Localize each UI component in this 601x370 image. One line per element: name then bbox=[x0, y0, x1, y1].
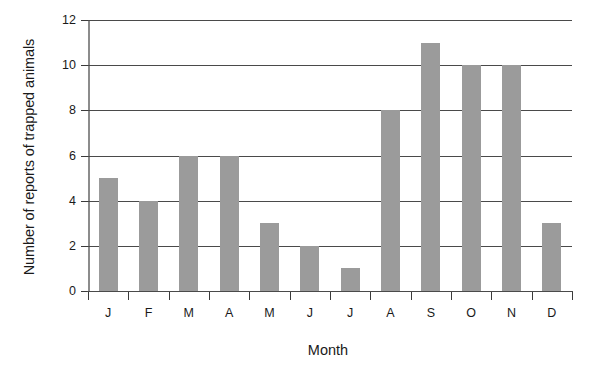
gridline-6 bbox=[88, 156, 572, 157]
x-tick-mark-5 bbox=[290, 292, 291, 300]
x-tick-label-0: J bbox=[88, 306, 128, 320]
bar-J-0 bbox=[99, 178, 118, 291]
bar-N-10 bbox=[502, 65, 521, 291]
x-tick-label-6: J bbox=[330, 306, 370, 320]
x-tick-mark-6 bbox=[330, 292, 331, 300]
bar-J-6 bbox=[341, 268, 360, 291]
x-tick-mark-2 bbox=[169, 292, 170, 300]
x-tick-label-10: N bbox=[492, 306, 532, 320]
x-tick-label-1: F bbox=[129, 306, 169, 320]
x-tick-mark-1 bbox=[128, 292, 129, 300]
gridline-2 bbox=[88, 246, 572, 247]
y-tick-label-6: 6 bbox=[52, 150, 76, 162]
y-tick-label-0: 0 bbox=[52, 285, 76, 297]
x-tick-label-5: J bbox=[290, 306, 330, 320]
x-tick-mark-10 bbox=[491, 292, 492, 300]
bar-A-3 bbox=[220, 156, 239, 292]
bar-F-1 bbox=[139, 201, 158, 291]
x-tick-mark-12 bbox=[572, 292, 573, 300]
x-tick-label-7: A bbox=[371, 306, 411, 320]
x-tick-mark-3 bbox=[209, 292, 210, 300]
bar-M-2 bbox=[179, 156, 198, 292]
bar-M-4 bbox=[260, 223, 279, 291]
y-tick-label-12: 12 bbox=[52, 14, 76, 26]
bar-J-5 bbox=[300, 246, 319, 291]
y-tick-label-8: 8 bbox=[52, 104, 76, 116]
bar-chart-figure: Number of reports of trapped animals 12 … bbox=[0, 0, 601, 370]
y-tick-label-4: 4 bbox=[52, 195, 76, 207]
bar-D-11 bbox=[542, 223, 561, 291]
y-axis-title: Number of reports of trapped animals bbox=[18, 2, 40, 312]
x-tick-label-4: M bbox=[250, 306, 290, 320]
x-tick-mark-0 bbox=[88, 292, 89, 300]
x-tick-label-2: M bbox=[169, 306, 209, 320]
x-tick-label-9: O bbox=[451, 306, 491, 320]
gridline-10 bbox=[88, 65, 572, 66]
bar-O-9 bbox=[462, 65, 481, 291]
bar-S-8 bbox=[421, 43, 440, 291]
y-tick-label-2: 2 bbox=[52, 240, 76, 252]
x-tick-label-8: S bbox=[411, 306, 451, 320]
x-tick-label-11: D bbox=[532, 306, 572, 320]
x-axis-title: Month bbox=[0, 341, 601, 359]
bar-A-7 bbox=[381, 110, 400, 291]
x-tick-mark-4 bbox=[249, 292, 250, 300]
x-tick-label-3: A bbox=[209, 306, 249, 320]
plot-area bbox=[88, 20, 572, 291]
x-tick-mark-7 bbox=[370, 292, 371, 300]
x-tick-mark-11 bbox=[532, 292, 533, 300]
gridline-4 bbox=[88, 201, 572, 202]
y-tick-label-10: 10 bbox=[52, 59, 76, 71]
x-tick-mark-9 bbox=[451, 292, 452, 300]
gridline-12 bbox=[88, 20, 572, 21]
gridline-8 bbox=[88, 110, 572, 111]
x-tick-mark-8 bbox=[411, 292, 412, 300]
